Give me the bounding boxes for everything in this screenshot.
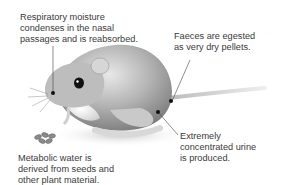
annotation-faeces: Faeces are egested as very dry pellets. (174, 31, 255, 53)
annotation-line: Metabolic water is (18, 153, 114, 164)
annotation-line: concentrated urine (180, 142, 256, 153)
annotation-urine: Extremely concentrated urine is produced… (180, 131, 256, 164)
annotation-respiratory: Respiratory moisture condenses in the na… (20, 12, 138, 45)
marker-faeces (169, 99, 173, 103)
marker-urine (156, 110, 160, 114)
rat-ear (91, 58, 109, 74)
annotation-line: Faeces are egested (174, 31, 255, 42)
annotation-line: as very dry pellets. (174, 42, 255, 53)
annotation-line: is produced. (180, 153, 256, 164)
annotation-line: Extremely (180, 131, 256, 142)
rat-eye (74, 78, 84, 89)
rat-tail (168, 88, 265, 98)
annotation-line: other plant material. (18, 175, 114, 185)
annotation-line: Respiratory moisture (20, 12, 138, 23)
annotation-line: condenses in the nasal (20, 23, 138, 34)
annotation-metabolic: Metabolic water is derived from seeds an… (18, 153, 114, 185)
marker-respiratory (51, 91, 55, 95)
annotation-line: passages and is reabsorbed. (20, 34, 138, 45)
annotation-line: derived from seeds and (18, 164, 114, 175)
seeds-icon (34, 132, 56, 145)
